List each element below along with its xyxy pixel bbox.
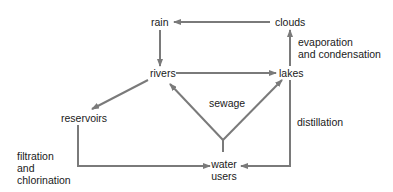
- arrow-sewage-to-rivers: [170, 84, 223, 140]
- node-water-users-line2: users: [209, 170, 239, 182]
- node-water-users: water users: [209, 158, 239, 182]
- label-distillation: distillation: [297, 116, 343, 128]
- arrow-reservoirs-to-water-users: [78, 125, 210, 166]
- node-reservoirs: reservoirs: [61, 112, 107, 124]
- label-filtration-line2: and: [17, 162, 71, 174]
- label-sewage: sewage: [209, 97, 245, 109]
- label-filtration-line3: chlorination: [17, 174, 71, 186]
- arrow-lakes-to-water-users: [241, 80, 290, 166]
- arrow-rivers-to-reservoirs: [92, 80, 148, 109]
- node-water-users-line1: water: [209, 158, 239, 170]
- label-filtration-line1: filtration: [17, 150, 71, 162]
- node-rivers: rivers: [150, 67, 176, 79]
- label-evaporation-line1: evaporation: [298, 36, 381, 48]
- label-filtration: filtration and chlorination: [17, 150, 71, 186]
- node-clouds: clouds: [275, 16, 305, 28]
- arrow-sewage-to-lakes: [223, 80, 282, 140]
- node-lakes: lakes: [279, 67, 304, 79]
- label-evaporation: evaporation and condensation: [298, 36, 381, 60]
- node-rain: rain: [151, 16, 169, 28]
- label-evaporation-line2: and condensation: [298, 48, 381, 60]
